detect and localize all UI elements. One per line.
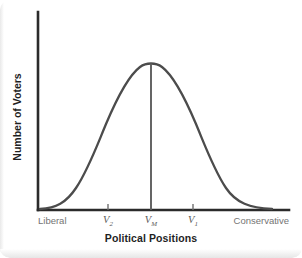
- bell-curve-path: [40, 64, 272, 210]
- axis-end-label-liberal: Liberal: [38, 215, 67, 226]
- voter-distribution-chart: V2 VM V1 Liberal Conservative: [0, 0, 302, 258]
- y-axis-title: Number of Voters: [11, 73, 23, 160]
- tick-label-v2: V2: [103, 214, 113, 228]
- tick-label-v1-subscript: 1: [194, 220, 198, 228]
- axis-end-label-conservative: Conservative: [234, 215, 289, 226]
- x-axis-title: Political Positions: [0, 232, 302, 244]
- tick-label-v2-subscript: 2: [109, 220, 113, 228]
- tick-label-vm-subscript: M: [150, 220, 158, 228]
- tick-label-vm: VM: [145, 214, 158, 228]
- tick-label-v1: V1: [188, 214, 198, 228]
- y-axis-title-container: Number of Voters: [6, 52, 28, 182]
- figure-card: V2 VM V1 Liberal Conservative Number of …: [0, 0, 302, 258]
